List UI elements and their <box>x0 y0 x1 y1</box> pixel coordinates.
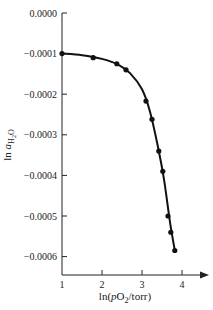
data-point <box>172 248 177 253</box>
data-point <box>123 67 128 72</box>
y-axis: 0.0000−0.0001−0.0002−0.0003−0.0004−0.000… <box>24 8 67 276</box>
x-axis-title: ln(pO2/torr) <box>99 290 152 305</box>
data-point <box>165 213 170 218</box>
data-point <box>143 99 148 104</box>
data-point <box>149 117 154 122</box>
chart: 0.0000−0.0001−0.0002−0.0003−0.0004−0.000… <box>0 0 213 310</box>
y-tick-label: −0.0004 <box>24 170 57 181</box>
data-point <box>114 61 119 66</box>
data-points <box>59 51 177 253</box>
x-axis-arrow-icon <box>200 272 209 279</box>
data-point <box>156 148 161 153</box>
y-tick-label: −0.0003 <box>24 129 57 140</box>
data-point <box>168 230 173 235</box>
x-tick-label: 1 <box>60 279 65 290</box>
data-point <box>160 169 165 174</box>
x-tick-label: 2 <box>100 279 105 290</box>
x-axis: 1234 <box>60 270 210 290</box>
y-tick-label: −0.0005 <box>24 211 57 222</box>
y-tick-label: −0.0001 <box>24 48 57 59</box>
data-point <box>59 51 64 56</box>
x-tick-label: 3 <box>140 279 145 290</box>
y-tick-label: −0.0002 <box>24 89 57 100</box>
data-point <box>91 55 96 60</box>
y-tick-label: −0.0006 <box>24 251 57 262</box>
y-tick-label: 0.0000 <box>30 8 58 19</box>
y-axis-title: ln aH2O <box>1 129 17 161</box>
x-tick-label: 4 <box>180 279 185 290</box>
